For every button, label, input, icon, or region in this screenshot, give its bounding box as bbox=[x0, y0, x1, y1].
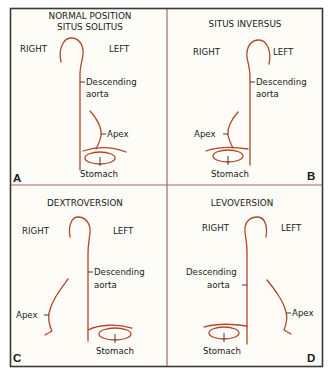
panel-b-letter: B bbox=[307, 170, 315, 182]
panel-b-title: SITUS INVERSUS bbox=[209, 19, 282, 29]
panel-d-aorta-label-line2: aorta bbox=[207, 280, 230, 290]
panel-d-right-label: RIGHT bbox=[202, 223, 230, 233]
panel-c-left-label: LEFT bbox=[113, 226, 134, 236]
panel-d-title: LEVOVERSION bbox=[211, 198, 273, 208]
panel-c-letter: C bbox=[13, 352, 21, 364]
panel-d-apex-label: Apex bbox=[292, 308, 314, 318]
panel-b-aorta-label-line1: Descending bbox=[256, 77, 307, 87]
cardiac-position-figure: NORMAL POSITION SITUS SOLITUS RIGHT LEFT… bbox=[0, 0, 334, 371]
panel-a-aorta-label-line2: aorta bbox=[86, 89, 109, 99]
panel-d-stomach-label: Stomach bbox=[203, 346, 241, 356]
panel-b-stomach-label: Stomach bbox=[211, 169, 249, 179]
panel-a-title-line1: NORMAL POSITION bbox=[49, 11, 132, 21]
panel-b-aorta-label-line2: aorta bbox=[256, 89, 279, 99]
panel-a-title-line2: SITUS SOLITUS bbox=[57, 22, 123, 32]
panel-c-right-label: RIGHT bbox=[22, 226, 50, 236]
panel-c-apex-label: Apex bbox=[16, 310, 38, 320]
panel-c-aorta-label-line2: aorta bbox=[94, 280, 117, 290]
panel-a-apex-label: Apex bbox=[107, 129, 129, 139]
panel-c-aorta-label-line1: Descending bbox=[94, 267, 145, 277]
panel-a-left-label: LEFT bbox=[109, 44, 130, 54]
panel-a-aorta-label-line1: Descending bbox=[86, 77, 137, 87]
panel-b-right-label: RIGHT bbox=[193, 47, 221, 57]
figure-canvas: NORMAL POSITION SITUS SOLITUS RIGHT LEFT… bbox=[0, 0, 334, 371]
panel-a-stomach-label: Stomach bbox=[80, 169, 118, 179]
panel-c-title: DEXTROVERSION bbox=[47, 198, 123, 208]
panel-c-stomach-label: Stomach bbox=[96, 346, 134, 356]
panel-b-left-label: LEFT bbox=[273, 47, 294, 57]
panel-d-letter: D bbox=[307, 352, 315, 364]
panel-d-aorta-label-line1: Descending bbox=[186, 267, 237, 277]
panel-d-left-label: LEFT bbox=[281, 223, 302, 233]
panel-a-letter: A bbox=[13, 172, 21, 184]
panel-b-apex-label: Apex bbox=[194, 129, 216, 139]
panel-a-right-label: RIGHT bbox=[20, 44, 48, 54]
